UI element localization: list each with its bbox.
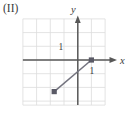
- data-point-lower-left: [52, 89, 57, 94]
- coordinate-plot: x y 1 1: [0, 0, 131, 113]
- line-segment: [54, 60, 91, 92]
- x-axis: [23, 57, 117, 63]
- x-axis-label: x: [119, 55, 125, 66]
- y-unit-label: 1: [59, 42, 64, 52]
- figure-container: (II): [0, 0, 131, 113]
- x-unit-label: 1: [90, 66, 95, 76]
- data-point-on-x-axis: [89, 57, 94, 62]
- y-axis-label: y: [70, 4, 76, 15]
